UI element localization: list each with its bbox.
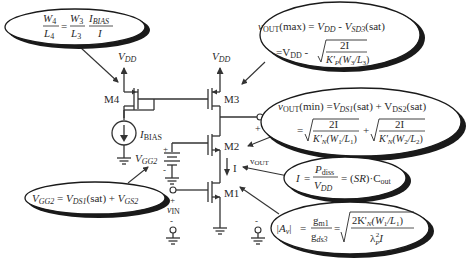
svg-text:=: = [297, 124, 303, 136]
vgg2-label: VGG2 [135, 152, 157, 166]
svg-text:-: - [170, 216, 173, 226]
svg-text:2I: 2I [395, 118, 405, 130]
m3-label: M3 [224, 93, 240, 105]
vout-minus-terminal: - [251, 216, 265, 244]
svg-text:2I: 2I [340, 39, 350, 51]
transistor-m1: M1 [176, 181, 239, 234]
svg-text:2I: 2I [329, 118, 339, 130]
vgg2-battery: + - VGG2 [135, 144, 180, 184]
vdd-left-label: VDD [118, 50, 137, 64]
svg-text:-: - [255, 216, 258, 226]
callout-current: I = Pdiss VDD = (SR)·Cout [284, 157, 411, 203]
svg-text:+: + [363, 124, 369, 136]
m2-label: M2 [224, 140, 239, 152]
callout-vout-max: vOUT(max) = VDD - VSD3(sat) =VDD - 2I K'… [258, 2, 425, 72]
callout-width-ratio: W4 L4 = W3 L3 IBIAS I [5, 9, 150, 49]
ibias-label: IBIAS [139, 128, 162, 142]
current-label: I [233, 162, 237, 174]
vdd-right-label: VDD [212, 50, 231, 64]
m4-label: M4 [104, 93, 120, 105]
vin-input: + vIN - [166, 187, 180, 244]
svg-text:=: = [300, 222, 306, 234]
vout-label: vOUT [250, 156, 270, 167]
svg-text:=: = [304, 172, 310, 184]
vdd-right-supply: VDD [212, 50, 231, 92]
svg-text:-: - [163, 165, 166, 175]
vin-label: vIN [167, 204, 180, 216]
svg-text:=: = [334, 222, 340, 234]
vdd-left-supply: VDD [118, 50, 137, 92]
output-node: + [220, 114, 263, 134]
transistor-m2: M2 [172, 134, 239, 183]
callout-vgg2: VGG2 = VDS1(sat) + VGS2 [25, 182, 170, 218]
transistor-m3: M3 [208, 88, 240, 136]
circuit-diagram: VDD M4 IBIAS [0, 0, 472, 258]
transistor-m4: M4 [104, 88, 208, 118]
callout-vout-min: vOUT(min) =VDS1(sat) + VDS2(sat) = 2I K'… [261, 88, 466, 161]
callout-gain: |Av| = gm1 gds3 = 2K'N(W1/L1) λP2I [271, 202, 434, 258]
svg-text:|Av|: |Av| [276, 222, 292, 236]
m1-label: M1 [224, 187, 239, 199]
vout-plus: + [255, 123, 261, 134]
svg-text:=: = [61, 20, 67, 32]
current-arrow: I vOUT [224, 156, 270, 176]
